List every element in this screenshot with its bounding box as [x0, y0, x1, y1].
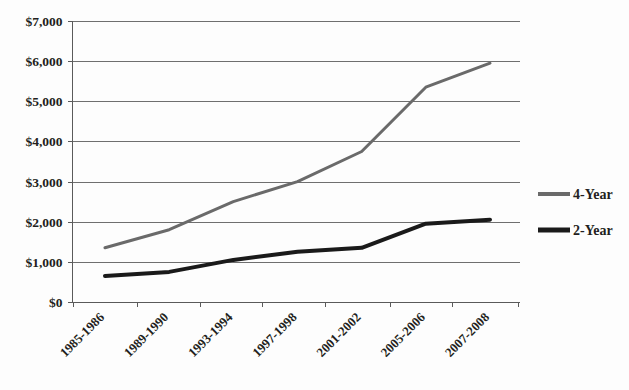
y-tick-label: $1,000 [25, 255, 62, 270]
series-line-2-year [105, 220, 490, 276]
line-chart: $0$1,000$2,000$3,000$4,000$5,000$6,000$7… [0, 0, 629, 390]
chart-legend: 4-Year2-Year [538, 187, 613, 238]
y-tick-marks [68, 22, 73, 303]
y-tick-label: $6,000 [25, 54, 62, 69]
x-axis-tick-labels: 1985-19861989-19901993-19941997-19982001… [57, 309, 493, 360]
x-tick-label: 1997-1998 [249, 309, 300, 360]
x-tick-label: 1993-1994 [185, 309, 236, 360]
y-tick-label: $2,000 [25, 215, 62, 230]
gridlines [73, 22, 521, 263]
legend-label-2-year: 2-Year [573, 223, 613, 238]
y-tick-label: $7,000 [25, 14, 62, 29]
x-tick-label: 1989-1990 [121, 310, 171, 360]
y-tick-label: $5,000 [25, 94, 62, 109]
chart-container: $0$1,000$2,000$3,000$4,000$5,000$6,000$7… [0, 0, 629, 390]
y-axis-tick-labels: $0$1,000$2,000$3,000$4,000$5,000$6,000$7… [25, 14, 62, 310]
y-tick-label: $0 [49, 295, 63, 310]
series-line-4-year [105, 63, 490, 248]
y-tick-label: $3,000 [25, 175, 62, 190]
data-series-group [105, 63, 490, 276]
x-tick-label: 1985-1986 [57, 309, 108, 360]
x-tick-label: 2007-2008 [442, 309, 493, 360]
y-tick-label: $4,000 [25, 134, 62, 149]
legend-label-4-year: 4-Year [573, 187, 613, 202]
x-tick-label: 2001-2002 [313, 310, 363, 360]
x-tick-label: 2005-2006 [378, 309, 429, 360]
